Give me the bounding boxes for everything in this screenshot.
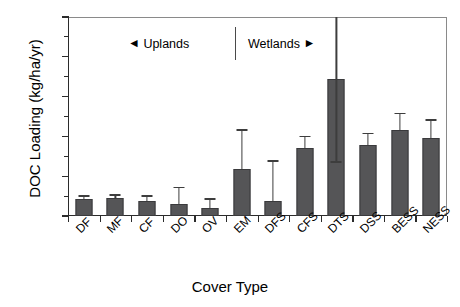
error-bar-cap — [426, 119, 437, 120]
wetlands-annotation: Wetlands ► — [248, 36, 315, 51]
x-axis-tick — [415, 216, 416, 222]
x-axis-tick-label: DO — [168, 213, 191, 236]
x-axis-tick-label: EM — [231, 213, 254, 236]
error-bar-line — [367, 133, 368, 145]
x-axis-tick — [258, 216, 259, 222]
error-bar-line — [431, 120, 432, 138]
x-axis-tick — [100, 216, 101, 222]
x-axis-tick — [163, 216, 164, 222]
y-axis-title: DOC Loading (kg/ha/yr) — [26, 9, 43, 229]
x-axis-tick — [289, 216, 290, 222]
uplands-annotation: ◄ Uplands — [128, 36, 189, 51]
error-bar-line — [273, 161, 274, 201]
x-axis-tick-label: MF — [104, 214, 126, 236]
error-bar-cap — [363, 133, 374, 134]
x-axis-title: Cover Type — [0, 278, 460, 295]
left-arrow-icon: ◄ — [128, 36, 140, 50]
error-bar-line — [241, 130, 242, 169]
error-bar-cap — [236, 129, 247, 130]
bar — [391, 130, 408, 216]
error-bar-cap — [268, 160, 279, 161]
bar-group — [100, 17, 132, 216]
x-axis-tick — [321, 216, 322, 222]
x-axis-tick-label: DF — [73, 215, 94, 236]
bar-group — [415, 17, 447, 216]
x-axis-tick-label: CF — [136, 215, 157, 236]
error-bar-cap — [78, 195, 89, 196]
chart-figure: DOC Loading (kg/ha/yr) 0100200300400500 … — [0, 0, 460, 307]
error-bar-cap — [141, 195, 152, 196]
error-bar-line-lower — [336, 79, 337, 162]
error-bar-cap — [173, 187, 184, 188]
x-axis-tick — [131, 216, 132, 222]
error-bar-cap — [299, 136, 310, 137]
x-axis-tick — [384, 216, 385, 222]
bar-group — [68, 17, 100, 216]
x-axis-tick-label: OV — [199, 214, 221, 236]
error-bar-cap — [205, 198, 216, 199]
bar-group — [384, 17, 416, 216]
error-bar-line — [399, 114, 400, 130]
error-bar-cap — [110, 194, 121, 195]
x-axis-tick — [352, 216, 353, 222]
bar-group — [321, 17, 353, 216]
x-axis-tick — [194, 216, 195, 222]
group-divider-line — [235, 27, 236, 60]
wetlands-label: Wetlands — [248, 37, 300, 51]
bar — [296, 148, 313, 216]
error-bar-line — [336, 17, 337, 79]
x-axis-tick — [68, 216, 69, 222]
bar-group — [194, 17, 226, 216]
bar — [423, 138, 440, 216]
error-bar-cap — [394, 113, 405, 114]
bar-group — [352, 17, 384, 216]
error-bar-line — [304, 137, 305, 148]
bar — [233, 169, 250, 216]
x-axis-tick — [447, 216, 448, 222]
error-bar-line — [146, 196, 147, 201]
uplands-label: Uplands — [143, 37, 189, 51]
error-bar-cap-lower — [331, 161, 342, 162]
right-arrow-icon: ► — [303, 36, 315, 50]
x-axis-tick — [226, 216, 227, 222]
error-bar-line — [178, 187, 179, 204]
bar — [360, 145, 377, 216]
error-bar-line — [210, 199, 211, 208]
